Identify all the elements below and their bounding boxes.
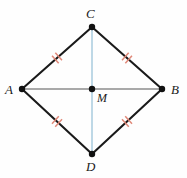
geometry-figure: A B C D M [0,0,187,178]
vertex-label-B: B [171,83,179,96]
vertex-label-D: D [86,160,95,173]
vertex-label-C: C [86,7,95,20]
vertex-dot-C [89,24,95,30]
vertex-dot-D [89,151,95,157]
rhombus-diagram-svg [0,0,187,178]
vertex-dot-A [19,86,25,92]
vertex-dot-B [159,86,165,92]
side-AD [22,89,92,154]
side-CB [92,27,162,89]
side-AC [22,27,92,89]
midpoint-label-M: M [97,92,107,104]
midpoint-dot-M [89,86,95,92]
vertex-label-A: A [5,83,13,96]
